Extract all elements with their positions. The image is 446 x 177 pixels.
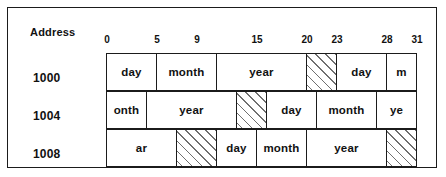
padding-cell <box>236 91 267 129</box>
field-label: day <box>226 142 246 154</box>
field-cell-month: month <box>316 91 377 129</box>
address-column: Address 1000 1004 1008 <box>30 26 106 166</box>
field-cell-ye: ye <box>376 91 417 129</box>
bit-tick-15: 15 <box>251 34 262 45</box>
address-label-1000: 1000 <box>33 71 105 85</box>
word-row-1004: onthyeardaymonthye <box>107 91 417 129</box>
word-row-1008: ardaymonthyear <box>107 129 417 167</box>
bit-tick-28: 28 <box>381 34 392 45</box>
bit-tick-20: 20 <box>301 34 312 45</box>
bit-tick-23: 23 <box>331 34 342 45</box>
field-cell-day: day <box>336 53 387 91</box>
field-label: day <box>121 66 141 78</box>
field-label: month <box>263 142 299 154</box>
field-label: day <box>281 104 301 116</box>
field-cell-day: day <box>216 129 257 167</box>
field-label: onth <box>114 104 140 116</box>
field-label: day <box>351 66 371 78</box>
bit-position-ruler: 0591520232831 <box>107 34 417 54</box>
address-label-1008: 1008 <box>33 147 105 161</box>
field-cell-ar: ar <box>106 129 177 167</box>
field-label: month <box>328 104 364 116</box>
word-table: daymonthyeardaym onthyeardaymonthye arda… <box>107 53 417 167</box>
field-cell-day: day <box>106 53 157 91</box>
field-label: ar <box>136 142 147 154</box>
field-label: m <box>396 66 406 78</box>
field-label: year <box>249 66 273 78</box>
memory-layout-figure: Address 1000 1004 1008 0591520232831 day… <box>0 0 446 177</box>
field-label: month <box>168 66 204 78</box>
field-cell-m: m <box>386 53 417 91</box>
field-label: year <box>334 142 358 154</box>
padding-cell <box>306 53 337 91</box>
field-cell-onth: onth <box>106 91 147 129</box>
bit-tick-31: 31 <box>411 34 422 45</box>
field-cell-day: day <box>266 91 317 129</box>
field-label: ye <box>390 104 403 116</box>
bit-tick-0: 0 <box>104 34 110 45</box>
field-cell-month: month <box>256 129 307 167</box>
field-cell-year: year <box>306 129 387 167</box>
bit-tick-9: 9 <box>194 34 200 45</box>
field-label: year <box>179 104 203 116</box>
bit-tick-5: 5 <box>154 34 160 45</box>
field-cell-year: year <box>146 91 237 129</box>
field-cell-month: month <box>156 53 217 91</box>
address-column-caption: Address <box>30 26 106 38</box>
padding-cell <box>176 129 217 167</box>
padding-cell <box>386 129 417 167</box>
figure-border: Address 1000 1004 1008 0591520232831 day… <box>7 7 437 168</box>
word-row-1000: daymonthyeardaym <box>107 53 417 91</box>
field-cell-year: year <box>216 53 307 91</box>
address-label-1004: 1004 <box>33 109 105 123</box>
